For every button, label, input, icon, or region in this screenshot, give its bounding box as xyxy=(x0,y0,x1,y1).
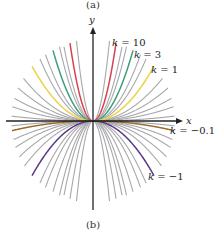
parabola-family-figure: (a) x y k = 10k = 3k = 1k = −0.1k = −1 (… xyxy=(0,0,216,234)
y-axis xyxy=(90,27,96,210)
k-label: k = 10 xyxy=(112,37,146,48)
k-label: k = 3 xyxy=(134,49,161,60)
x-axis xyxy=(6,118,183,124)
k-label: k = 1 xyxy=(151,64,178,75)
y-axis-label: y xyxy=(88,14,95,25)
k-label: k = −1 xyxy=(148,171,184,182)
caption-b: (b) xyxy=(86,219,100,230)
caption-a: (a) xyxy=(86,0,100,10)
x-axis-arrow-icon xyxy=(176,118,183,124)
y-axis-arrow-icon xyxy=(90,27,96,34)
k-label: k = −0.1 xyxy=(170,125,215,136)
